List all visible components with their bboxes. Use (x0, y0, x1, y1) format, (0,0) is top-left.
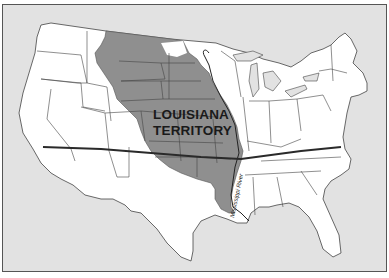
map-frame: LOUISIANA TERRITORY Mississippi River (2, 4, 387, 272)
territory-label-line2: TERRITORY (153, 123, 232, 139)
territory-label: LOUISIANA TERRITORY (153, 107, 232, 139)
territory-label-line1: LOUISIANA (153, 107, 232, 123)
